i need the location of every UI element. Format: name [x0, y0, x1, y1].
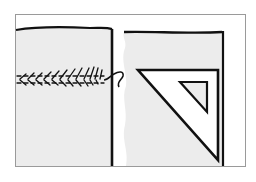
left-fabric-piece	[16, 27, 112, 166]
sewing-illustration	[0, 0, 256, 182]
